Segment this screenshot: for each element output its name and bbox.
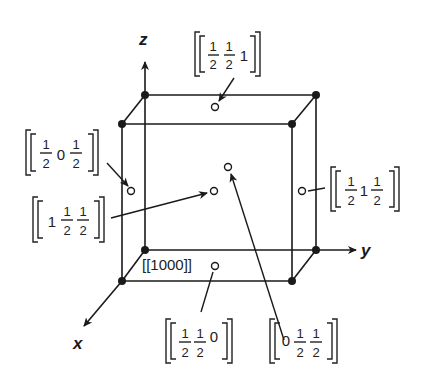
svg-text:1: 1 bbox=[296, 326, 303, 341]
label-half-zero-half: 1 2 0 1 2 bbox=[26, 130, 98, 175]
svg-text:2: 2 bbox=[209, 57, 216, 72]
z-axis-label: z bbox=[138, 30, 148, 49]
corner-atom bbox=[141, 246, 149, 254]
label-half-half-one: 1 2 1 2 1 bbox=[195, 32, 260, 76]
point-half-half-zero bbox=[212, 263, 219, 270]
svg-text:2: 2 bbox=[79, 223, 86, 238]
svg-text:1: 1 bbox=[48, 213, 56, 230]
svg-text:2: 2 bbox=[347, 193, 354, 208]
svg-text:1: 1 bbox=[240, 47, 248, 64]
svg-text:2: 2 bbox=[63, 223, 70, 238]
point-one-half-half bbox=[211, 188, 218, 195]
svg-text:1: 1 bbox=[312, 326, 319, 341]
svg-text:2: 2 bbox=[373, 193, 380, 208]
corner-atom bbox=[118, 120, 126, 128]
svg-text:1: 1 bbox=[181, 326, 188, 341]
x-axis bbox=[84, 281, 122, 326]
svg-text:1: 1 bbox=[42, 137, 49, 152]
svg-text:2: 2 bbox=[312, 345, 319, 360]
label-one-half-half: 1 1 2 1 2 bbox=[33, 197, 104, 242]
svg-text:1: 1 bbox=[373, 174, 380, 189]
point-zero-half-half bbox=[225, 164, 232, 171]
svg-text:1: 1 bbox=[79, 204, 86, 219]
point-half-zero-half bbox=[128, 188, 135, 195]
corner-atom bbox=[288, 277, 296, 285]
corner-atom bbox=[141, 91, 149, 99]
svg-text:0: 0 bbox=[282, 332, 290, 349]
label-half-one-half: 1 2 1 1 2 bbox=[331, 167, 399, 211]
svg-text:2: 2 bbox=[72, 156, 79, 171]
label-half-half-zero: 1 2 1 2 0 bbox=[166, 319, 232, 363]
svg-text:1: 1 bbox=[347, 174, 354, 189]
svg-text:1: 1 bbox=[196, 326, 203, 341]
svg-text:0: 0 bbox=[210, 328, 218, 345]
svg-text:2: 2 bbox=[296, 345, 303, 360]
x-axis-label: x bbox=[72, 334, 84, 353]
axes: z y x bbox=[72, 30, 372, 353]
y-axis-label: y bbox=[360, 241, 372, 260]
svg-text:1: 1 bbox=[72, 137, 79, 152]
svg-text:0: 0 bbox=[57, 146, 65, 163]
svg-text:2: 2 bbox=[42, 156, 49, 171]
cube-edges bbox=[122, 95, 316, 281]
point-half-one-half bbox=[299, 188, 306, 195]
corner-atom bbox=[312, 246, 320, 254]
svg-text:2: 2 bbox=[225, 57, 232, 72]
svg-text:1: 1 bbox=[225, 39, 232, 54]
point-half-half-one bbox=[212, 104, 219, 111]
svg-text:1: 1 bbox=[360, 182, 368, 199]
svg-text:1: 1 bbox=[63, 204, 70, 219]
label-origin: [[1000]] bbox=[142, 256, 192, 273]
unit-cell-diagram: z y x bbox=[0, 0, 430, 384]
face-points bbox=[128, 104, 306, 270]
svg-text:2: 2 bbox=[181, 345, 188, 360]
svg-text:1: 1 bbox=[209, 39, 216, 54]
corner-atom bbox=[312, 91, 320, 99]
corner-atom bbox=[118, 277, 126, 285]
svg-text:2: 2 bbox=[196, 345, 203, 360]
corner-atom bbox=[288, 120, 296, 128]
